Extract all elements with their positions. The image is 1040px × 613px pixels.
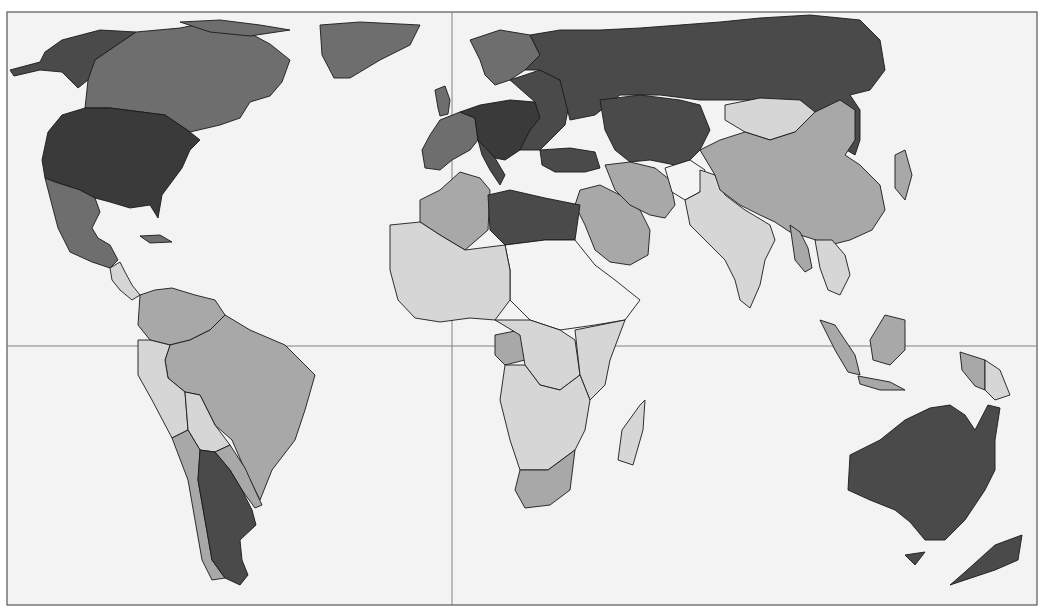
world-choropleth-map — [0, 0, 1040, 613]
region-turkey[interactable] — [540, 148, 600, 172]
